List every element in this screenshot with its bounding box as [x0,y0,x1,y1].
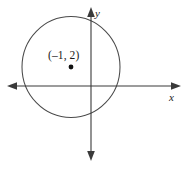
center-point-label: (–1, 2) [48,49,79,62]
x-axis-label: x [168,91,174,103]
coordinate-plane-figure: (–1, 2) y x [0,0,196,173]
x-axis-right-arrow-icon [171,82,181,90]
y-axis-label: y [94,7,100,19]
center-point-dot [69,65,74,70]
y-axis-bottom-arrow-icon [87,151,95,161]
figure-canvas: (–1, 2) y x [0,0,196,173]
y-axis-top-arrow-icon [87,7,95,17]
x-axis-left-arrow-icon [7,82,17,90]
